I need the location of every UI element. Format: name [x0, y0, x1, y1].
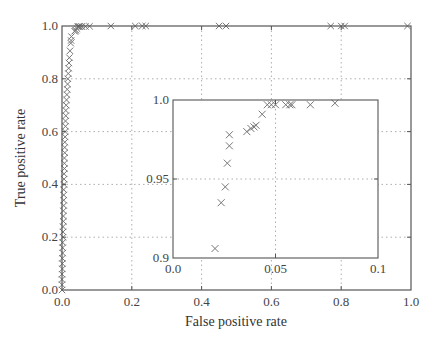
x-tick-label: 0.4 [193, 294, 210, 309]
data-point-x-marker [59, 245, 65, 251]
x-tick-label: 0.2 [124, 294, 140, 309]
roc-chart: 0.00.20.40.60.81.00.00.20.40.60.81.0 0.0… [0, 0, 443, 346]
data-point-x-marker [59, 250, 65, 256]
data-point-x-marker [60, 218, 66, 224]
data-point-x-marker [66, 54, 72, 60]
data-point-x-marker [60, 213, 66, 219]
x-tick-label: 0.05 [264, 261, 287, 276]
y-tick-label: 1.0 [153, 92, 169, 107]
x-tick-label: 1.0 [403, 294, 419, 309]
y-axis-label: True positive rate [13, 109, 28, 207]
x-axis-label: False positive rate [185, 314, 287, 329]
data-point-x-marker [62, 123, 68, 129]
y-tick-label: 0.95 [146, 171, 169, 186]
inset-plot: 0.00.050.10.90.951.0 [146, 92, 386, 276]
y-tick-label: 1.0 [42, 18, 58, 33]
x-tick-label: 0.1 [370, 261, 386, 276]
x-tick-label: 0.8 [333, 294, 349, 309]
x-tick-label: 0.6 [263, 294, 280, 309]
data-point-x-marker [67, 48, 73, 54]
data-point-x-marker [62, 134, 68, 140]
y-tick-label: 0.6 [42, 124, 59, 139]
y-tick-label: 0.9 [153, 250, 169, 265]
data-point-x-marker [63, 113, 69, 119]
y-tick-label: 0.0 [42, 282, 58, 297]
y-tick-label: 0.2 [42, 229, 58, 244]
y-tick-label: 0.4 [42, 176, 59, 191]
data-point-x-marker [60, 229, 66, 235]
y-tick-label: 0.8 [42, 71, 58, 86]
